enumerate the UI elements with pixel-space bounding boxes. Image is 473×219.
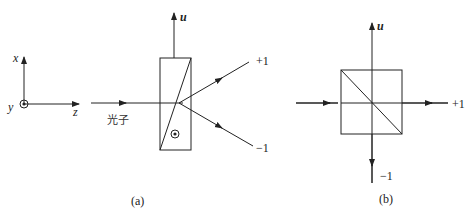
coordinate-axes: x y z — [7, 51, 79, 119]
x-axis-label: x — [12, 51, 19, 65]
u-label: u — [180, 10, 187, 24]
diagram-canvas: x y z 光子 u +1 −1 (a) u — [0, 0, 473, 219]
minus-one-label-b: −1 — [380, 169, 393, 183]
output-rays-a: +1 −1 — [179, 54, 269, 155]
polarizing-beam-splitter-b: u +1 −1 — [296, 19, 465, 183]
polarizing-prism-a: u — [160, 10, 191, 150]
plus-one-label: +1 — [256, 54, 269, 68]
z-axis-label: z — [72, 105, 78, 119]
caption-a: (a) — [131, 194, 144, 208]
photon-label: 光子 — [107, 113, 129, 127]
plus-one-label-b: +1 — [452, 97, 465, 111]
u-label-b: u — [377, 19, 384, 33]
y-axis-label: y — [7, 100, 14, 114]
caption-b: (b) — [379, 192, 393, 206]
minus-one-label: −1 — [256, 141, 269, 155]
